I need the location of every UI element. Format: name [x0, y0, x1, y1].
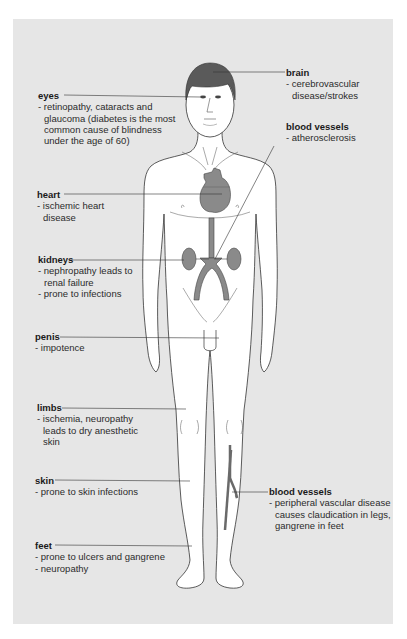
label-penis: penis - impotence	[35, 331, 85, 354]
label-eyes: eyes - retinopathy, cataracts and glauco…	[38, 90, 175, 146]
head	[186, 63, 235, 137]
label-brain: brain - cerebrovascular disease/strokes	[286, 67, 359, 101]
label-blood-vessels-upper: blood vessels - atherosclerosis	[286, 121, 356, 144]
genital-outline	[204, 330, 216, 351]
label-blood-vessels-lower: blood vessels - peripheral vascular dise…	[269, 486, 391, 531]
label-kidneys: kidneys - nephropathy leads to renal fai…	[38, 254, 133, 299]
label-heart: heart - ischemic heart disease	[37, 189, 104, 223]
label-feet: feet - prone to ulcers and gangrene - ne…	[35, 540, 165, 574]
label-skin: skin - prone to skin infections	[35, 475, 138, 498]
label-limbs: limbs - ischemia, neuropathy leads to dr…	[37, 402, 138, 447]
